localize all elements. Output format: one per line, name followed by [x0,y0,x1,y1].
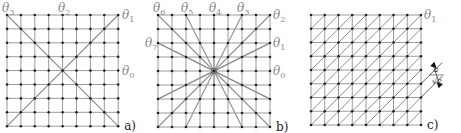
svg-text:√2: √2 [432,77,442,86]
theta-label: θ5 [181,1,193,17]
theta-label: θ7 [145,36,157,52]
theta-label: θ0 [273,64,285,80]
theta-label: θ1 [273,36,285,52]
panel-a: θ3θ2θ1θ0a) [2,1,136,133]
theta-label: θ6 [153,1,165,17]
panel-b: θ6θ5θ4θ3θ2θ1θ0θ7b) [145,1,288,133]
panel-label: b) [276,120,288,133]
panel-c: a√2θ1c) [310,8,444,132]
theta-label: θ0 [122,64,134,80]
angle-labels: θ1 [424,8,436,24]
dimension-annotation: a√2 [421,62,444,98]
svg-text:a: a [434,65,439,74]
theta-label: θ1 [122,8,134,24]
theta-label: θ4 [209,1,221,17]
angle-labels: θ3θ2θ1θ0 [2,1,134,80]
theta-label: θ2 [273,8,285,24]
theta-label: θ2 [58,1,70,17]
theta-label: θ3 [2,1,14,17]
panel-label: c) [427,118,438,132]
panel-label: a) [124,119,136,133]
theta-label: θ1 [424,8,436,24]
diagram-figure: θ3θ2θ1θ0a) θ6θ5θ4θ3θ2θ1θ0θ7b) a√2θ1c) [0,0,461,133]
theta-label: θ3 [237,1,249,17]
